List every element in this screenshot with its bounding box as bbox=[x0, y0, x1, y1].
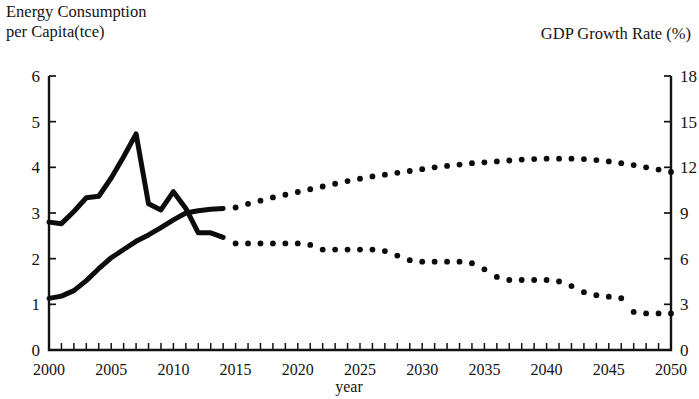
series-dot-1 bbox=[556, 156, 562, 162]
y-axis-tick-label: 4 bbox=[32, 158, 41, 177]
series-dot-3 bbox=[258, 241, 264, 247]
series-dot-3 bbox=[519, 277, 525, 283]
series-dot-1 bbox=[531, 156, 537, 162]
series-dot-1 bbox=[656, 167, 662, 173]
series-dot-3 bbox=[593, 292, 599, 298]
series-dot-3 bbox=[631, 309, 637, 315]
series-dot-3 bbox=[432, 259, 438, 265]
series-dot-1 bbox=[643, 164, 649, 170]
series-dot-1 bbox=[270, 195, 276, 201]
series-dot-1 bbox=[519, 157, 525, 163]
plot-area: 0123456036912151820002005201020152020202… bbox=[0, 0, 699, 399]
series-dot-3 bbox=[270, 241, 276, 247]
series-dot-3 bbox=[457, 259, 463, 265]
series-dot-3 bbox=[469, 260, 475, 266]
series-dot-1 bbox=[233, 205, 239, 211]
x-axis-tick-label: 2010 bbox=[157, 361, 189, 378]
series-group bbox=[49, 134, 674, 317]
axes-group bbox=[49, 76, 671, 350]
series-dot-3 bbox=[531, 277, 537, 283]
series-dot-3 bbox=[357, 247, 363, 253]
series-dot-3 bbox=[332, 247, 338, 253]
series-dot-3 bbox=[581, 289, 587, 295]
y-axis-tick-label: 6 bbox=[32, 67, 41, 86]
chart-figure: Energy Consumption per Capita(tce) GDP G… bbox=[0, 0, 699, 399]
series-dot-3 bbox=[282, 241, 288, 247]
x-axis-tick-label: 2005 bbox=[95, 361, 127, 378]
series-dot-1 bbox=[357, 176, 363, 182]
series-dot-1 bbox=[593, 157, 599, 163]
series-dot-1 bbox=[394, 170, 400, 176]
series-dot-1 bbox=[618, 160, 624, 166]
series-dot-3 bbox=[569, 283, 575, 289]
series-dot-3 bbox=[345, 247, 351, 253]
series-dot-1 bbox=[282, 192, 288, 198]
y2-axis-tick-label: 12 bbox=[680, 158, 697, 177]
series-dot-3 bbox=[307, 242, 313, 248]
series-dot-3 bbox=[382, 248, 388, 254]
series-dot-3 bbox=[668, 311, 674, 317]
series-dot-1 bbox=[569, 156, 575, 162]
series-line-2 bbox=[49, 134, 223, 238]
series-dot-3 bbox=[506, 277, 512, 283]
y2-axis-tick-label: 6 bbox=[680, 250, 689, 269]
series-dot-3 bbox=[482, 266, 488, 272]
x-axis-tick-label: 2015 bbox=[220, 361, 252, 378]
x-axis-tick-label: 2020 bbox=[282, 361, 314, 378]
series-dot-3 bbox=[656, 311, 662, 317]
series-dot-1 bbox=[494, 159, 500, 165]
series-dot-1 bbox=[606, 159, 612, 165]
x-axis-tick-label: 2000 bbox=[33, 361, 65, 378]
series-dot-1 bbox=[307, 186, 313, 192]
series-dot-1 bbox=[407, 168, 413, 174]
y2-axis-tick-label: 15 bbox=[680, 113, 697, 132]
y-axis-tick-label: 2 bbox=[32, 250, 41, 269]
x-axis-tick-label: 2040 bbox=[531, 361, 563, 378]
series-dot-1 bbox=[332, 181, 338, 187]
series-dot-1 bbox=[469, 160, 475, 166]
x-axis-tick-label: 2030 bbox=[406, 361, 438, 378]
series-dot-1 bbox=[668, 169, 674, 175]
x-axis-tick-label: 2050 bbox=[655, 361, 687, 378]
series-dot-3 bbox=[494, 274, 500, 280]
series-dot-3 bbox=[233, 241, 239, 247]
series-dot-1 bbox=[506, 158, 512, 164]
series-dot-1 bbox=[382, 172, 388, 178]
series-dot-1 bbox=[320, 184, 326, 190]
x-axis-tick-label: 2025 bbox=[344, 361, 376, 378]
series-dot-3 bbox=[643, 311, 649, 317]
series-dot-1 bbox=[295, 189, 301, 195]
series-dot-3 bbox=[245, 241, 251, 247]
series-dot-3 bbox=[394, 253, 400, 259]
series-dot-1 bbox=[482, 159, 488, 165]
series-dot-1 bbox=[544, 156, 550, 162]
series-dot-3 bbox=[544, 277, 550, 283]
y2-axis-tick-label: 18 bbox=[680, 67, 697, 86]
series-dot-3 bbox=[407, 257, 413, 263]
series-dot-3 bbox=[444, 259, 450, 265]
tick-labels-group: 0123456036912151820002005201020152020202… bbox=[32, 67, 698, 378]
series-dot-1 bbox=[432, 164, 438, 170]
series-dot-1 bbox=[370, 174, 376, 180]
series-dot-1 bbox=[631, 162, 637, 168]
axis-frame bbox=[49, 76, 671, 350]
x-axis-tick-label: 2035 bbox=[468, 361, 500, 378]
series-dot-3 bbox=[295, 241, 301, 247]
y2-axis-tick-label: 9 bbox=[680, 204, 689, 223]
y2-axis-tick-label: 0 bbox=[680, 341, 689, 360]
series-dot-3 bbox=[320, 247, 326, 253]
series-dot-3 bbox=[370, 247, 376, 253]
series-dot-1 bbox=[245, 201, 251, 207]
series-dot-1 bbox=[457, 162, 463, 168]
series-dot-1 bbox=[581, 156, 587, 162]
series-line-0 bbox=[49, 208, 223, 298]
y-axis-tick-label: 1 bbox=[32, 295, 41, 314]
series-dot-1 bbox=[444, 163, 450, 169]
x-axis-title: year bbox=[335, 378, 363, 396]
series-dot-3 bbox=[606, 294, 612, 300]
y-axis-tick-label: 0 bbox=[32, 341, 41, 360]
series-dot-3 bbox=[419, 259, 425, 265]
y-axis-tick-label: 5 bbox=[32, 113, 41, 132]
series-dot-1 bbox=[345, 178, 351, 184]
y-axis-tick-label: 3 bbox=[32, 204, 41, 223]
